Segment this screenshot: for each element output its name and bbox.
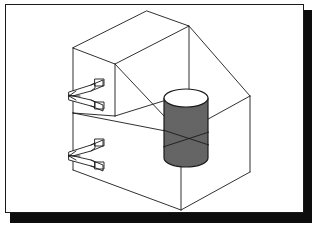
cylinder-group <box>163 88 209 170</box>
drawing-canvas <box>0 0 314 225</box>
wireframe-svg <box>0 0 314 225</box>
cylinder-top-ellipse <box>164 89 208 107</box>
arrow-annotation-lower <box>69 139 104 171</box>
upper-arrow-1-shaft <box>69 80 103 97</box>
screenshot-root <box>0 0 314 225</box>
lower-box-edge-rear-right <box>189 26 250 96</box>
upper-box-top-face <box>73 11 189 64</box>
lower-box-group <box>73 26 250 210</box>
lower-box-edge-bottom-right <box>181 172 250 210</box>
arrow-annotation-upper <box>69 79 104 111</box>
lower-box-edge-bottom-left <box>73 170 181 210</box>
lower-arrow-1-shaft <box>69 140 103 157</box>
